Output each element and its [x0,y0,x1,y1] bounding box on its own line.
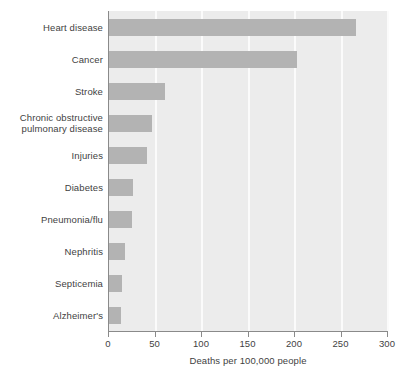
bar-fill [109,115,152,132]
bars-layer [109,11,388,331]
category-label-line: Stroke [0,86,103,97]
bar-fill [109,83,165,100]
x-tick-label: 250 [333,338,349,349]
bar-7 [109,243,125,260]
bar-2 [109,83,165,100]
category-label-0: Heart disease [0,22,103,33]
bar-4 [109,147,147,164]
category-label-7: Nephritis [0,246,103,257]
bar-0 [109,19,356,36]
x-tick-label: 100 [193,338,209,349]
category-label-4: Injuries [0,150,103,161]
category-label-2: Stroke [0,86,103,97]
x-tick-label: 50 [149,338,160,349]
category-label-5: Diabetes [0,182,103,193]
category-labels: Heart diseaseCancerStrokeChronic obstruc… [0,11,103,331]
bar-9 [109,307,121,324]
bar-fill [109,19,356,36]
bar-fill [109,307,121,324]
bar-fill [109,147,147,164]
bar-fill [109,243,125,260]
bar-fill [109,275,122,292]
plot-area [109,11,388,331]
x-tick [155,332,156,337]
category-label-3: Chronic obstructivepulmonary disease [0,112,103,134]
bar-3 [109,115,152,132]
bar-fill [109,179,133,196]
x-tick [201,332,202,337]
category-label-line: Septicemia [0,278,103,289]
category-label-line: Cancer [0,54,103,65]
category-label-line: pulmonary disease [0,123,103,134]
x-tick-label: 300 [379,338,395,349]
category-label-6: Pneumonia/flu [0,214,103,225]
x-axis-title: Deaths per 100,000 people [108,355,388,367]
x-tick [341,332,342,337]
bar-8 [109,275,122,292]
y-axis-line [108,11,109,332]
category-label-line: Injuries [0,150,103,161]
x-tick [248,332,249,337]
category-label-line: Pneumonia/flu [0,214,103,225]
category-label-1: Cancer [0,54,103,65]
bar-fill [109,51,297,68]
bar-1 [109,51,297,68]
bar-fill [109,211,132,228]
x-tick-label: 200 [286,338,302,349]
category-label-line: Chronic obstructive [0,112,103,123]
bar-5 [109,179,133,196]
bar-chart: Heart diseaseCancerStrokeChronic obstruc… [0,0,414,375]
category-label-line: Diabetes [0,182,103,193]
x-tick-label: 0 [105,338,110,349]
x-tick [387,332,388,337]
category-label-9: Alzheimer's [0,310,103,321]
bar-6 [109,211,132,228]
x-tick-label: 150 [240,338,256,349]
category-label-line: Alzheimer's [0,310,103,321]
category-label-line: Nephritis [0,246,103,257]
category-label-line: Heart disease [0,22,103,33]
category-label-8: Septicemia [0,278,103,289]
x-tick [108,332,109,337]
x-tick [294,332,295,337]
